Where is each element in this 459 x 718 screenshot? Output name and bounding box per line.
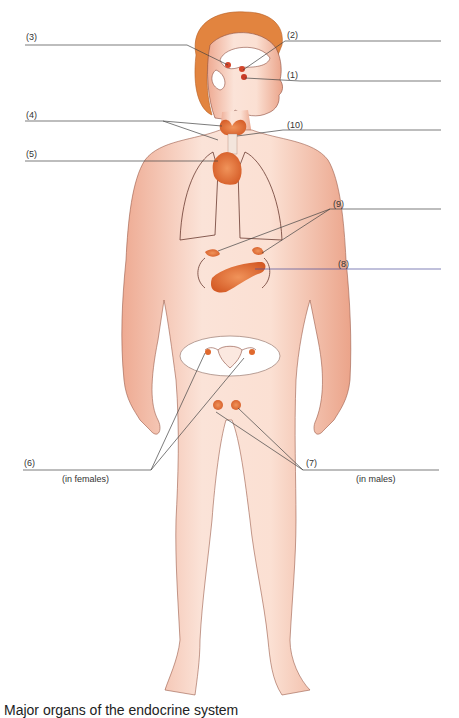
- figure-caption: Major organs of the endocrine system: [4, 702, 238, 718]
- label-5: (5): [26, 149, 37, 159]
- leader-4b: [163, 121, 218, 140]
- torso: [122, 130, 351, 695]
- testis-right: [231, 400, 241, 410]
- pituitary-gland: [241, 74, 247, 80]
- label-2: (2): [287, 30, 298, 40]
- testis-left: [213, 400, 223, 410]
- label-4: (4): [26, 110, 37, 120]
- label-9: (9): [333, 199, 344, 209]
- ovary-right: [249, 349, 255, 355]
- ovary-left: [205, 349, 211, 355]
- leader-4a: [25, 121, 222, 126]
- label-1: (1): [287, 70, 298, 80]
- label-10: (10): [287, 120, 303, 130]
- sublabel-females: (in females): [62, 474, 109, 484]
- sublabel-males: (in males): [356, 474, 396, 484]
- label-7: (7): [306, 458, 317, 468]
- label-3: (3): [26, 32, 37, 42]
- trachea: [228, 134, 237, 154]
- label-8: (8): [338, 259, 349, 269]
- label-6: (6): [24, 458, 35, 468]
